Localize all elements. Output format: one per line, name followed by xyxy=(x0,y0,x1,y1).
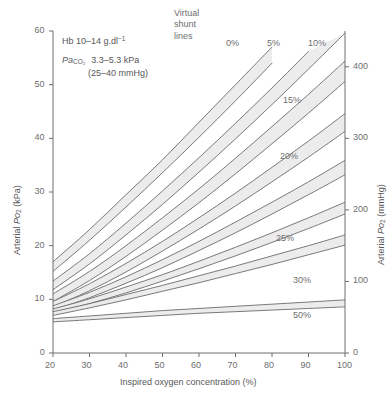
hb-annotation: Hb 10–14 g.dl−1 xyxy=(62,35,125,46)
y-right-prefix: Arterial xyxy=(376,234,386,265)
paco2-mmhg-value: (25–40 mmHg) xyxy=(88,68,148,78)
y-right-po: Po xyxy=(376,223,386,234)
x-tick-label-100: 100 xyxy=(337,360,352,370)
y-tick-label-left-50: 50 xyxy=(35,79,45,89)
x-axis-title: Inspired oxygen concentration (%) xyxy=(120,377,257,387)
shunt-label-10pct: 10% xyxy=(308,38,326,48)
x-tick-label-70: 70 xyxy=(228,360,238,370)
y-tick-label-left-10: 10 xyxy=(35,293,45,303)
shunt-label-5pct: 5% xyxy=(267,38,280,48)
y-tick-label-left-60: 60 xyxy=(35,25,45,35)
x-tick-label-40: 40 xyxy=(118,360,128,370)
iso-shunt-chart: Hb 10–14 g.dl−1 PaCO₂3.3–5.3 kPa (25–40 … xyxy=(0,0,388,400)
paco2-mmhg-annotation: (25–40 mmHg) xyxy=(88,68,148,78)
shunt-label-15pct: 15% xyxy=(283,95,301,105)
virtual-shunt-lines-caption: Virtual shunt lines xyxy=(174,8,199,42)
hb-superscript: −1 xyxy=(118,35,125,42)
y-tick-label-right-200: 200 xyxy=(353,204,368,214)
y-axis-left-title: Arterial Po2 (kPa) xyxy=(12,185,22,255)
paco2-pa-label: Pa xyxy=(62,55,73,65)
shunt-label-30pct: 30% xyxy=(293,275,311,285)
paco2-subscript: CO₂ xyxy=(73,58,85,65)
y-tick-label-right-300: 300 xyxy=(353,132,368,142)
y-left-prefix: Arterial xyxy=(12,224,22,255)
virtual-shunt-line-2: shunt xyxy=(174,19,199,30)
y-tick-label-right-400: 400 xyxy=(353,61,368,71)
y-tick-label-right-0: 0 xyxy=(353,347,358,357)
y-right-unit: (mmHg) xyxy=(376,184,386,219)
virtual-shunt-line-3: lines xyxy=(174,31,199,42)
x-tick-label-60: 60 xyxy=(191,360,201,370)
x-tick-label-20: 20 xyxy=(45,360,55,370)
x-tick-label-90: 90 xyxy=(301,360,311,370)
y-axis-right-title: Arterial Po2 (mmHg) xyxy=(376,184,386,265)
paco2-annotation: PaCO₂3.3–5.3 kPa xyxy=(62,55,139,65)
y-tick-label-left-0: 0 xyxy=(40,347,45,357)
y-left-po: Po xyxy=(12,213,22,224)
band-upper-edge xyxy=(53,51,309,281)
chart-canvas xyxy=(0,0,388,400)
shunt-label-0pct: 0% xyxy=(226,38,239,48)
y-tick-label-left-40: 40 xyxy=(35,132,45,142)
shunt-label-20pct: 20% xyxy=(280,151,298,161)
y-right-sub: 2 xyxy=(379,219,386,223)
virtual-shunt-line-1: Virtual xyxy=(174,8,199,19)
shunt-label-25pct: 25% xyxy=(276,233,294,243)
x-tick-label-30: 30 xyxy=(82,360,92,370)
shunt-label-50pct: 50% xyxy=(293,310,311,320)
x-tick-label-80: 80 xyxy=(264,360,274,370)
hb-label: Hb 10–14 g.dl xyxy=(62,36,118,46)
y-tick-label-left-30: 30 xyxy=(35,186,45,196)
x-tick-label-50: 50 xyxy=(155,360,165,370)
y-left-unit: (kPa) xyxy=(12,185,22,209)
band-upper-edge xyxy=(53,61,345,294)
y-left-sub: 2 xyxy=(15,209,22,213)
y-tick-label-left-20: 20 xyxy=(35,240,45,250)
y-tick-label-right-100: 100 xyxy=(353,275,368,285)
paco2-value: 3.3–5.3 kPa xyxy=(91,55,139,65)
